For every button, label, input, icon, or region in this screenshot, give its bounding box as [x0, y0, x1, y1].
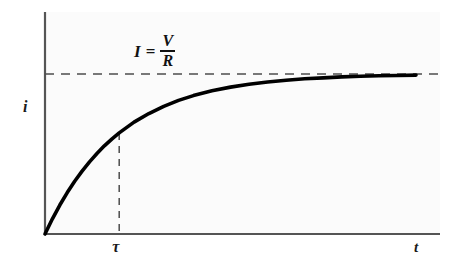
- equation-numerator: V: [160, 33, 175, 50]
- y-axis-label: i: [23, 99, 27, 115]
- asymptote-equation: I = V R: [134, 33, 175, 69]
- current-rise-curve: [45, 75, 416, 234]
- x-axis-label: t: [414, 240, 418, 255]
- equation-lhs: I: [134, 43, 141, 60]
- tau-tick-label: τ: [112, 239, 119, 255]
- equation-fraction: V R: [160, 33, 175, 69]
- rl-current-chart-figure: i t τ I = V R: [0, 0, 459, 266]
- equation-equals-sign: =: [146, 43, 156, 60]
- chart-svg: [0, 0, 459, 266]
- equation-denominator: R: [160, 52, 175, 69]
